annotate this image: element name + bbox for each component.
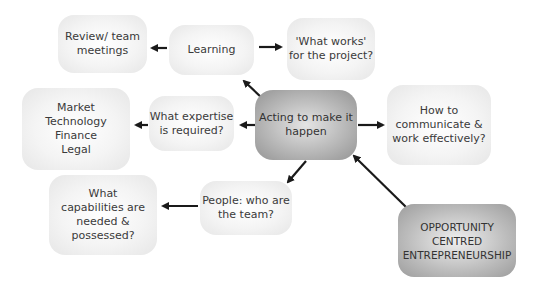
node-what-works: 'What works' for the project? [287,18,375,80]
node-review-team-meetings: Review/ team meetings [58,15,147,73]
node-opportunity-centred-entrepreneurship: OPPORTUNITY CENTRED ENTREPRENEURSHIP [398,204,516,277]
arrow-acting-to-people [288,161,306,182]
node-what-capabilities: What capabilities are needed & possessed… [49,175,157,255]
node-how-to-communicate: How to communicate & work effectively? [387,85,491,165]
node-market-technology-finance-legal: Market Technology Finance Legal [22,88,130,170]
node-people-who-are-the-team: People: who are the team? [200,181,292,235]
node-what-expertise: What expertise is required? [149,96,234,151]
node-learning: Learning [169,25,254,75]
node-acting-to-make-it-happen: Acting to make it happen [255,90,357,160]
